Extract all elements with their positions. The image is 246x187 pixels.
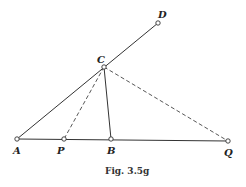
point-C: [102, 65, 106, 69]
point-P: [62, 137, 66, 141]
point-A: [15, 137, 19, 141]
segment-AQ: [17, 139, 228, 141]
segment-CQ: [104, 67, 228, 141]
label-C: C: [97, 54, 105, 65]
label-Q: Q: [224, 147, 233, 158]
geometry-diagram: D C A P B Q Fig. 3.5g: [0, 0, 246, 187]
segment-AD: [17, 23, 158, 139]
label-P: P: [56, 145, 65, 156]
point-Q: [226, 139, 230, 143]
label-A: A: [12, 145, 21, 156]
label-B: B: [106, 145, 115, 156]
figure-caption: Fig. 3.5g: [105, 166, 150, 176]
segment-CB: [104, 67, 111, 139]
point-D: [156, 21, 160, 25]
point-B: [109, 137, 113, 141]
segment-CP: [64, 67, 104, 139]
label-D: D: [157, 9, 167, 20]
